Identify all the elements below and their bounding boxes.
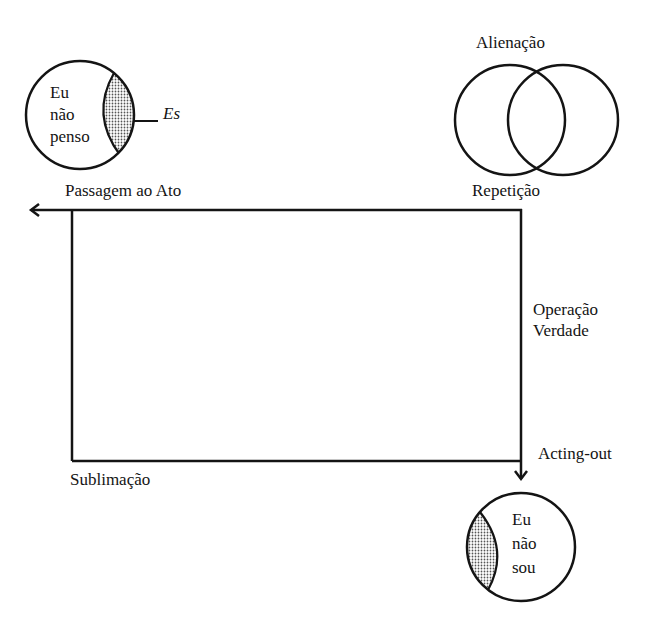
- acting-out-label: Acting-out: [538, 444, 612, 464]
- eu-nao-penso-text: Eu não penso: [50, 82, 90, 148]
- repeticao-label: Repetição: [472, 181, 540, 201]
- es-label: Es: [163, 104, 180, 124]
- edge-line: Verdade: [533, 320, 598, 341]
- eu-nao-sou-text: Eu não sou: [512, 508, 537, 580]
- sublimacao-label: Sublimação: [70, 470, 150, 490]
- eu-nao-penso-circle: [26, 61, 158, 169]
- cycle-rectangle: [31, 204, 527, 479]
- circle-line: Eu: [50, 82, 90, 104]
- alienacao-venn: [455, 65, 618, 175]
- circle-line: penso: [50, 126, 90, 148]
- alienacao-label: Alienação: [476, 33, 545, 53]
- circle-line: não: [50, 104, 90, 126]
- operacao-verdade-label: Operação Verdade: [533, 299, 598, 341]
- circle-line: Eu: [512, 508, 537, 532]
- edge-line: Operação: [533, 299, 598, 320]
- circle-line: sou: [512, 556, 537, 580]
- circle-line: não: [512, 532, 537, 556]
- passagem-ao-ato-label: Passagem ao Ato: [65, 181, 181, 201]
